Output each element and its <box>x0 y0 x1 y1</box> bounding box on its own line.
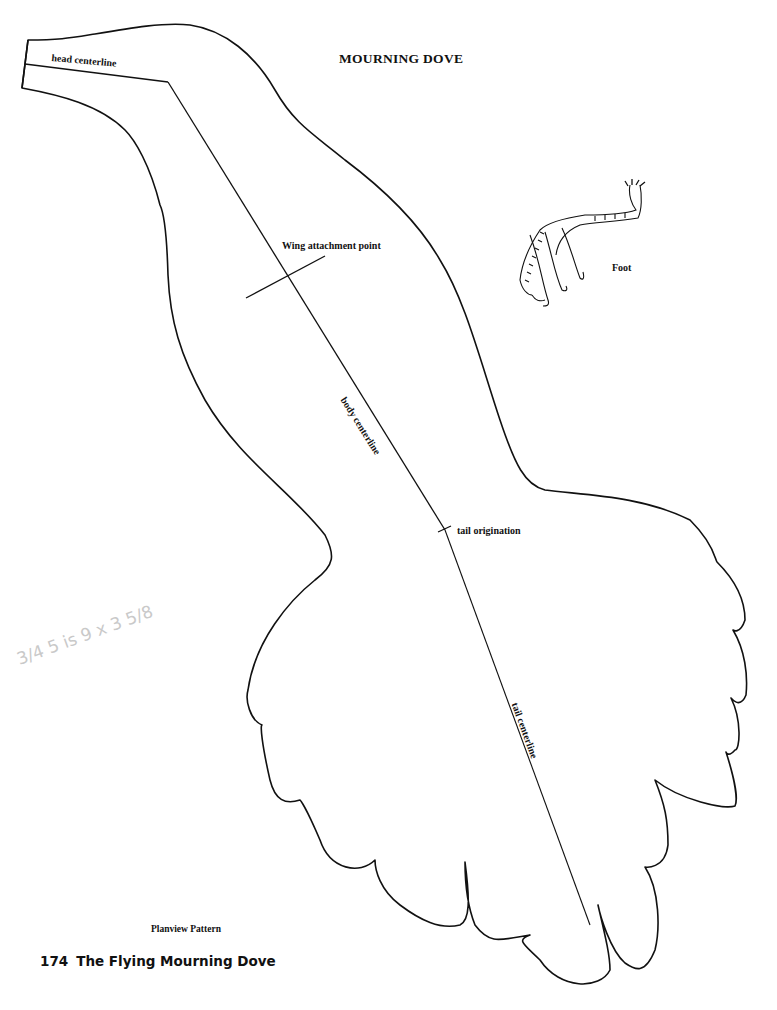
wing-attachment-marker <box>246 256 325 298</box>
pattern-page: MOURNING DOVE head centerline Wing attac… <box>0 0 777 1010</box>
wing-attachment-label: Wing attachment point <box>282 240 381 251</box>
body-centerline <box>168 82 445 530</box>
dove-planview-outline <box>0 0 777 1010</box>
page-title: MOURNING DOVE <box>339 51 463 67</box>
tail-origination-tick <box>438 526 451 532</box>
tail-origination-label: tail origination <box>457 525 521 536</box>
page-footer: 174The Flying Mourning Dove <box>40 953 276 969</box>
page-number: 174 <box>40 953 68 969</box>
foot-label: Foot <box>612 262 631 273</box>
foot-drawing <box>520 179 645 306</box>
body-outline <box>22 24 747 984</box>
figure-caption: Planview Pattern <box>151 924 221 934</box>
book-title: The Flying Mourning Dove <box>76 953 276 969</box>
